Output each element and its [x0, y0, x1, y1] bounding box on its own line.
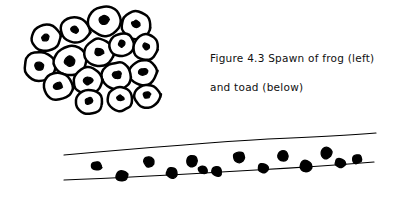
toad-egg — [335, 159, 346, 168]
toad-egg — [300, 160, 312, 172]
toad-egg — [91, 162, 102, 170]
toad-egg — [212, 167, 222, 177]
caption-line-2: and toad (below) — [210, 80, 408, 95]
frog-egg-embryo — [132, 20, 141, 27]
toad-egg — [321, 147, 332, 159]
toad-egg — [353, 155, 362, 164]
toad-egg — [198, 166, 207, 174]
figure-page: Figure 4.3 Spawn of frog (left) and toad… — [0, 0, 408, 209]
toad-egg — [144, 157, 154, 167]
frog-spawn-clump — [25, 7, 161, 114]
frog-egg-embryo — [143, 43, 150, 50]
frog-egg-embryo — [35, 62, 44, 70]
frog-egg-embryo — [138, 69, 147, 76]
frog-egg-embryo — [42, 34, 49, 41]
frog-egg-embryo — [143, 92, 151, 98]
frog-egg-embryo — [112, 71, 121, 79]
toad-egg — [166, 168, 177, 179]
toad-egg — [187, 156, 198, 167]
toad-spawn-string — [64, 133, 376, 181]
frog-egg-embryo — [85, 97, 93, 104]
caption-line-1: Figure 4.3 Spawn of frog (left) — [210, 51, 408, 66]
toad-egg — [278, 151, 288, 161]
toad-egg — [258, 164, 268, 173]
frog-egg-embryo — [99, 15, 109, 24]
frog-egg-embryo — [95, 48, 104, 55]
toad-egg — [116, 171, 128, 181]
figure-caption: Figure 4.3 Spawn of frog (left) and toad… — [210, 36, 408, 109]
toad-egg — [233, 152, 244, 163]
